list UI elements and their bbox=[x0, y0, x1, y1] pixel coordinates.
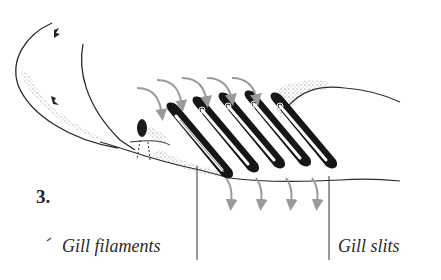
outgoing-water-arrows bbox=[226, 178, 317, 205]
gill-diagram: 3. Gill filaments Gill slits bbox=[0, 0, 441, 280]
figure-number: 3. bbox=[36, 186, 50, 208]
gill-filaments-label: Gill filaments bbox=[62, 236, 161, 257]
head-outline bbox=[16, 23, 135, 150]
gill-slits-label: Gill slits bbox=[338, 236, 400, 257]
